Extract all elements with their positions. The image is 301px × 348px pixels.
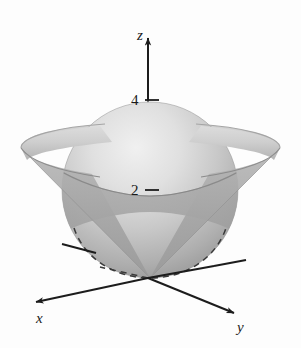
z-tick-label-2: 2 (131, 183, 139, 198)
x-axis-label: x (36, 311, 43, 326)
z-axis-label: z (137, 28, 143, 43)
x-axis-line (36, 278, 148, 302)
y-axis-far-segment (214, 260, 246, 266)
z-tick-label-4: 4 (131, 93, 139, 108)
figure-container: z x y 4 2 (0, 0, 301, 348)
sphere-cone-diagram (0, 0, 301, 348)
y-axis-label: y (237, 320, 244, 335)
y-axis-line (148, 278, 234, 313)
